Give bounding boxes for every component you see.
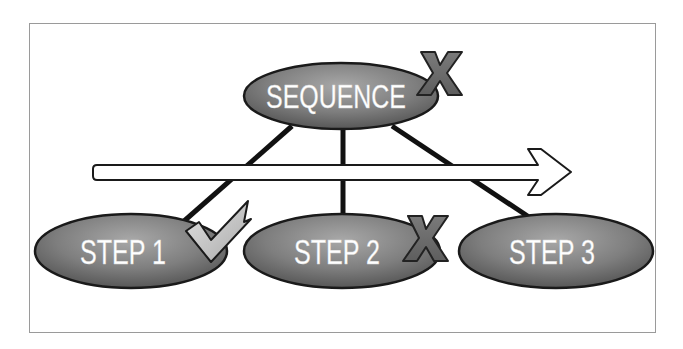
node-step-2-label: STEP 2 [294,232,380,271]
node-sequence: SEQUENCE [244,63,438,129]
diagram-canvas: SEQUENCE STEP 1 STEP 2 STEP 3 [0,0,683,349]
arrow-right-icon [93,149,571,195]
node-step-3: STEP 3 [459,214,653,288]
node-step-1-label: STEP 1 [80,232,166,271]
diagram-svg: SEQUENCE STEP 1 STEP 2 STEP 3 [0,0,683,349]
node-step-3-label: STEP 3 [509,232,595,271]
timeline-arrow [93,149,571,195]
x-mark-icon [417,52,462,95]
node-sequence-label: SEQUENCE [266,78,406,115]
